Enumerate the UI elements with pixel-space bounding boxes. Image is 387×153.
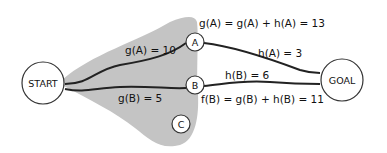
label-g-a: g(A) = 10 [125,44,176,56]
label-h-b: h(B) = 6 [225,69,270,81]
node-a: A [186,33,204,51]
label-f-a: g(A) = g(A) + h(A) = 13 [199,17,325,29]
node-a-label: A [192,37,199,48]
node-b: B [186,76,204,94]
label-g-b: g(B) = 5 [118,92,162,104]
node-goal: GOAL [321,59,363,101]
edge-b-goal [204,81,320,86]
label-f-b: f(B) = g(B) + h(B) = 11 [201,93,324,105]
node-b-label: B [192,80,199,91]
node-start: START [22,62,64,104]
node-c-label: C [178,119,185,130]
label-h-a: h(A) = 3 [258,47,302,59]
node-c: C [172,115,190,133]
astar-diagram: START GOAL A B C g(A) = 10 g(B) = 5 h(A)… [0,0,387,153]
node-goal-label: GOAL [329,75,356,86]
node-start-label: START [28,78,58,89]
